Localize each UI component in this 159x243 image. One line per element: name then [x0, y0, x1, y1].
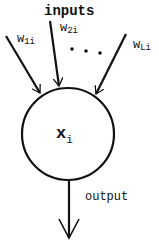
weight-label-L: wLi	[133, 38, 151, 53]
ellipsis-dots	[70, 47, 102, 55]
inputs-label: inputs	[44, 3, 94, 19]
weight-label-2: w2i	[60, 21, 78, 36]
input-arrow-2	[50, 21, 59, 86]
output-label: output	[85, 190, 128, 204]
neuron-diagram: inputs w1i w2i wLi xi output	[0, 0, 159, 243]
weight-label-1: w1i	[17, 32, 35, 47]
input-arrow-L	[96, 34, 126, 94]
node-label: xi	[56, 124, 73, 146]
